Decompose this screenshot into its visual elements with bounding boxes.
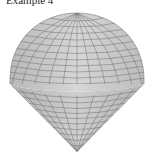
cone-part — [10, 84, 144, 152]
sphere-cone-surface — [0, 0, 154, 158]
sphere-cap-part — [9, 13, 145, 95]
